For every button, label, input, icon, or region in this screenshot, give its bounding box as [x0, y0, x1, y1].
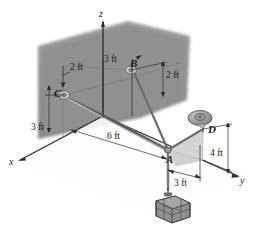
point-label-D: D: [208, 124, 216, 135]
axis-label-y: y: [240, 176, 244, 186]
axis-label-x: x: [9, 157, 13, 167]
dimension-label-b-height: 2 ft: [166, 71, 179, 81]
figure-canvas: [0, 0, 254, 229]
statics-figure: z x y C B A D 2 ft 3 ft 2 ft 3 ft 6 ft 4…: [0, 0, 254, 229]
dimension-label-c-height: 3 ft: [31, 123, 44, 133]
dimension-label-d-offset-y: 3 ft: [174, 179, 187, 189]
point-label-C: C: [54, 88, 61, 99]
point-label-B: B: [130, 58, 137, 69]
dimension-label-d-height: 4 ft: [210, 149, 223, 159]
dimension-label-c-offset-x: 2 ft: [70, 63, 83, 73]
point-label-A: A: [166, 154, 173, 165]
dimension-label-b-offset-x: 3 ft: [104, 55, 117, 65]
axis-label-z: z: [99, 9, 103, 19]
dimension-label-a-distance: 6 ft: [107, 132, 120, 142]
